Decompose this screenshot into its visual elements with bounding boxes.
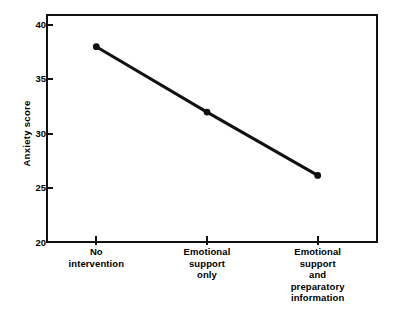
- x-tick-label: Emotionalsupportonly: [147, 246, 267, 281]
- x-tick-label-line: information: [258, 292, 378, 304]
- x-tick-label-line: Emotional: [258, 246, 378, 258]
- x-tick-label-line: Emotional: [147, 246, 267, 258]
- x-tick-label-line: support: [147, 258, 267, 270]
- y-tick-mark: [46, 133, 53, 135]
- y-tick-label: 30: [24, 129, 46, 139]
- data-point-marker: [314, 172, 321, 179]
- data-point-marker: [204, 109, 211, 116]
- y-tick-mark: [46, 187, 53, 189]
- data-point-marker: [93, 43, 100, 50]
- x-tick-label-line: only: [147, 269, 267, 281]
- plot-series-layer: [46, 14, 378, 243]
- chart-figure: Anxiety score 2025303540 NointerventionE…: [0, 0, 398, 315]
- y-tick-mark: [46, 24, 53, 26]
- x-tick-label-line: support: [258, 258, 378, 270]
- y-tick-label: 25: [24, 183, 46, 193]
- x-tick-label-line: intervention: [36, 258, 156, 270]
- x-tick-mark: [317, 236, 319, 245]
- x-tick-label-line: No: [36, 246, 156, 258]
- x-tick-mark: [95, 236, 97, 245]
- y-tick-label: 35: [24, 74, 46, 84]
- x-tick-label-line: preparatory: [258, 281, 378, 293]
- x-tick-label: Nointervention: [36, 246, 156, 269]
- y-tick-label: 40: [24, 20, 46, 30]
- x-tick-mark: [206, 236, 208, 245]
- y-tick-mark: [46, 78, 53, 80]
- x-tick-label-line: and: [258, 269, 378, 281]
- x-tick-label: Emotionalsupportandpreparatoryinformatio…: [258, 246, 378, 304]
